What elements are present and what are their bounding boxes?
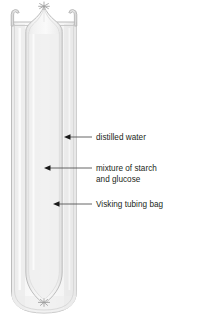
glass-highlight-right [69, 28, 71, 290]
diagram-root: distilled water mixture of starch and gl… [0, 0, 207, 324]
glass-highlight [19, 28, 21, 290]
label-text-mixture-line1: mixture of starch [96, 164, 157, 173]
label-text-distilled-water: distilled water [96, 133, 146, 142]
bag-highlight [33, 34, 35, 270]
label-text-mixture-line2: and glucose [96, 175, 141, 184]
visking-tubing-diagram: distilled water mixture of starch and gl… [0, 0, 207, 324]
label-text-visking-bag: Visking tubing bag [96, 200, 164, 209]
bag-top-tie-knot [39, 2, 50, 10]
visking-tubing-bag [26, 2, 62, 306]
